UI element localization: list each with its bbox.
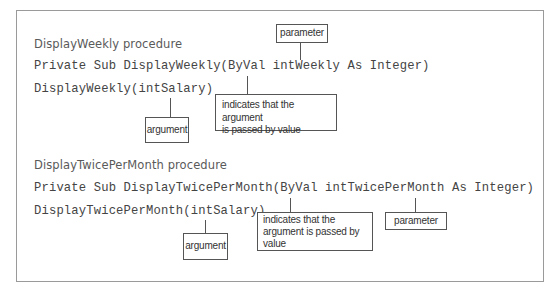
connector-line-argument-weekly [170,98,171,118]
connector-line-byval-twice [290,198,291,213]
code-line-procedure-call-weekly: DisplayWeekly(intSalary) [34,82,213,96]
connector-line-parameter-weekly [300,43,301,60]
callout-argument-label: argument [147,124,188,137]
callout-parameter-label: parameter [280,27,324,40]
callout-argument-weekly: argument [145,117,189,143]
callout-byval-line-2: argument is passed by [263,226,367,238]
connector-line-byval-weekly [247,76,248,95]
code-line-procedure-header-twice: Private Sub DisplayTwicePerMonth(ByVal i… [34,181,534,195]
callout-byval-note-twice: indicates that the argument is passed by… [257,212,373,251]
callout-byval-line-1: indicates that the argument [222,99,330,124]
section-title-display-weekly: DisplayWeekly procedure [34,37,182,51]
code-line-procedure-call-twice: DisplayTwicePerMonth(intSalary) [34,204,265,218]
callout-argument-label: argument [185,240,226,253]
connector-line-parameter-twice [415,198,416,213]
section-title-display-twice-per-month: DisplayTwicePerMonth procedure [34,158,227,172]
callout-argument-twice: argument [183,233,228,260]
callout-byval-line-2: is passed by value [222,124,330,137]
callout-byval-note-weekly: indicates that the argument is passed by… [215,94,337,131]
callout-parameter-twice: parameter [385,212,447,230]
callout-byval-line-1: indicates that the [263,214,367,226]
callout-byval-line-3: value [263,238,367,250]
callout-parameter-label: parameter [394,215,438,228]
connector-line-argument-twice [205,220,206,233]
code-line-procedure-header-weekly: Private Sub DisplayWeekly(ByVal intWeekl… [34,59,430,73]
callout-parameter-weekly: parameter [276,24,328,43]
